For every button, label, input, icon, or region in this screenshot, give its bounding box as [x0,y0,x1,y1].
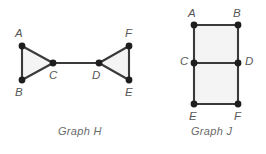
vertex-label-d: D [245,56,254,68]
vertex-label-a: A [15,28,23,40]
graph-vertex-a [191,22,198,29]
vertex-label-c: C [180,56,189,68]
graph-face [99,46,129,80]
graph-vertex-d [235,60,242,67]
vertex-label-b: B [233,8,241,20]
vertex-label-b: B [15,87,23,99]
graph-j-caption: Graph J [191,126,232,137]
vertex-label-d: D [92,70,101,82]
graph-h-caption: Graph H [58,126,102,137]
vertex-label-c: C [49,70,58,82]
graph-figure: ABCDEFGraph HABCDEFGraph J [0,0,266,154]
graph-j-drawing [191,22,242,108]
vertex-label-e: E [189,111,197,123]
graph-face [194,63,238,104]
vertex-label-f: F [234,111,241,123]
graph-vertex-b [235,22,242,29]
vertex-label-e: E [125,87,133,99]
graph-vertex-f [126,43,133,50]
graph-vertex-e [191,101,198,108]
vertex-label-a: A [188,8,196,20]
graph-vertex-c [191,60,198,67]
graph-vertex-e [126,77,133,84]
graph-vertex-d [96,60,103,67]
graph-vertex-b [19,77,26,84]
graph-vertex-c [50,60,57,67]
graph-vertex-f [235,101,242,108]
graph-face [194,25,238,63]
graph-h-drawing [19,43,133,84]
vertex-label-f: F [125,28,132,40]
graph-vertex-a [19,43,26,50]
